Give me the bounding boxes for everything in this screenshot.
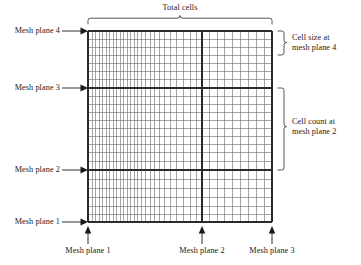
mesh-grid bbox=[88, 31, 272, 222]
left-label-mesh-plane-4: Mesh plane 4 bbox=[0, 26, 60, 36]
total-cells-brace bbox=[88, 16, 272, 24]
cell-size-brace bbox=[278, 31, 287, 55]
cell-size-label-line2: mesh plane 4 bbox=[292, 43, 336, 53]
left-label-mesh-plane-1: Mesh plane 1 bbox=[0, 217, 60, 227]
bottom-label-mesh-plane-1: Mesh plane 1 bbox=[58, 246, 118, 256]
bottom-plane-arrows bbox=[85, 226, 276, 244]
left-plane-arrows bbox=[62, 28, 88, 226]
bottom-label-mesh-plane-3: Mesh plane 3 bbox=[242, 246, 302, 256]
mesh-diagram: Total cells Mesh plane 4 Mesh plane 3 Me… bbox=[0, 0, 361, 265]
mesh-plane-lines bbox=[88, 31, 272, 222]
cell-count-label-line1: Cell count at bbox=[292, 117, 335, 127]
bottom-label-mesh-plane-2: Mesh plane 2 bbox=[172, 246, 232, 256]
cell-size-label-line1: Cell size at bbox=[292, 33, 330, 43]
left-label-mesh-plane-3: Mesh plane 3 bbox=[0, 83, 60, 93]
total-cells-label: Total cells bbox=[130, 3, 230, 13]
left-label-mesh-plane-2: Mesh plane 2 bbox=[0, 165, 60, 175]
cell-count-label-line2: mesh plane 2 bbox=[292, 127, 336, 137]
cell-count-brace bbox=[278, 88, 287, 170]
